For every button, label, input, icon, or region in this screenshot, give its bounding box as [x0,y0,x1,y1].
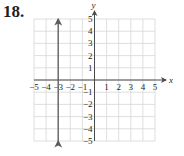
x-axis-label: x [168,75,173,85]
x-tick-label: 4 [141,82,146,92]
y-tick-label: −1 [83,87,93,97]
y-tick-label: −4 [83,124,93,134]
x-tick-label: −2 [66,82,76,92]
y-tick-label: 3 [88,38,93,48]
x-tick-label: −4 [41,82,51,92]
y-tick-label: −5 [83,136,93,146]
y-axis-label: y [91,0,96,10]
y-tick-label: 5 [88,14,93,24]
x-tick-label: −5 [29,82,39,92]
y-tick-label: 2 [88,51,93,61]
coordinate-plane: xy−5−4−3−2−11234554321−1−2−3−4−5 [0,0,184,156]
y-tick-label: −2 [83,99,93,109]
y-tick-label: 4 [88,26,93,36]
x-tick-label: 5 [153,82,158,92]
x-tick-label: 2 [116,82,121,92]
y-tick-label: 1 [88,63,93,73]
x-tick-label: 3 [129,82,134,92]
y-tick-label: −3 [83,112,93,122]
x-tick-label: 1 [104,82,109,92]
